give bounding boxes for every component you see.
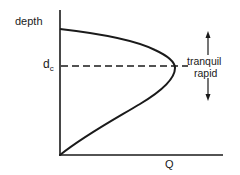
arrow-up-icon	[206, 31, 211, 55]
critical-depth-label: dc	[43, 58, 54, 72]
critical-depth-symbol: d	[43, 57, 50, 71]
critical-depth-subscript: c	[50, 64, 54, 73]
arrow-down-icon	[206, 78, 211, 101]
y-axis-label: depth	[15, 15, 43, 27]
rapid-label: rapid	[194, 67, 217, 79]
x-axis-label: Q	[165, 158, 174, 170]
tranquil-label: tranquil	[187, 55, 221, 67]
depth-discharge-curve	[60, 29, 175, 155]
